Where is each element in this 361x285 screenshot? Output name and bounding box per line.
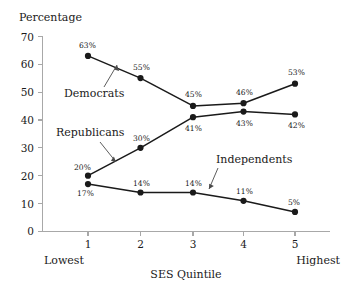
data-label-independents-1: 17% — [77, 189, 94, 198]
data-label-independents-4: 11% — [236, 187, 253, 196]
marker-democrats-1 — [85, 53, 91, 59]
data-label-independents-2: 14% — [133, 179, 150, 188]
y-tick-label-20: 20 — [21, 170, 34, 182]
marker-independents-4 — [240, 198, 246, 204]
data-label-democrats-1: 63% — [79, 41, 96, 50]
data-label-democrats-4: 46% — [236, 88, 253, 97]
y-tick-label-10: 10 — [21, 198, 34, 210]
marker-democrats-4 — [240, 100, 246, 106]
x-tick-label-1: 1 — [85, 238, 92, 250]
y-tick-label-60: 60 — [21, 58, 34, 70]
y-tick-label-30: 30 — [21, 142, 34, 154]
y-tick-label-0: 0 — [27, 225, 34, 237]
data-label-democrats-5: 53% — [288, 68, 305, 77]
y-tick-label-70: 70 — [21, 31, 34, 43]
marker-independents-5 — [292, 209, 298, 215]
data-label-independents-5: 5% — [288, 198, 300, 207]
data-label-democrats-2: 55% — [133, 63, 150, 72]
marker-republicans-4 — [240, 109, 246, 115]
marker-republicans-1 — [85, 173, 91, 179]
x-tick-label-4: 4 — [240, 238, 247, 250]
x-tick-label-2: 2 — [137, 238, 144, 250]
line-chart: Percentage 70 60 50 40 30 20 10 0 1 2 3 … — [0, 0, 361, 285]
y-tick-label-50: 50 — [21, 86, 34, 98]
data-label-democrats-3: 45% — [185, 90, 202, 99]
data-label-independents-3: 14% — [185, 179, 202, 188]
marker-democrats-5 — [292, 81, 298, 87]
marker-democrats-3 — [190, 103, 196, 109]
x-tick-label-5: 5 — [292, 238, 299, 250]
marker-independents-3 — [190, 189, 196, 195]
marker-independents-1 — [85, 181, 91, 187]
y-axis-title: Percentage — [19, 11, 82, 24]
x-tick-label-3: 3 — [190, 238, 197, 250]
series-annotation-democrats: Democrats — [64, 87, 125, 100]
x-axis-lowest-label: Lowest — [44, 254, 84, 267]
y-tick-label-40: 40 — [21, 114, 34, 126]
x-axis-title: SES Quintile — [150, 268, 221, 281]
chart-background — [0, 0, 361, 285]
marker-democrats-2 — [137, 75, 143, 81]
marker-republicans-3 — [190, 114, 196, 120]
data-label-republicans-5: 42% — [288, 121, 305, 130]
data-label-republicans-2: 30% — [133, 134, 150, 143]
chart-svg: Percentage 70 60 50 40 30 20 10 0 1 2 3 … — [0, 0, 361, 285]
marker-republicans-2 — [137, 145, 143, 151]
series-annotation-independents: Independents — [216, 153, 293, 166]
marker-independents-2 — [137, 189, 143, 195]
data-label-republicans-3: 41% — [185, 124, 202, 133]
data-label-republicans-1: 20% — [74, 163, 91, 172]
data-label-republicans-4: 43% — [236, 119, 253, 128]
series-annotation-republicans: Republicans — [56, 126, 125, 139]
marker-republicans-5 — [292, 111, 298, 117]
x-axis-highest-label: Highest — [296, 254, 340, 267]
